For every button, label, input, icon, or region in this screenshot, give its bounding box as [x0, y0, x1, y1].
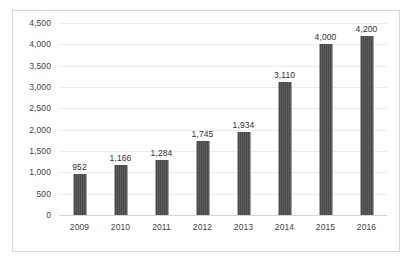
bar-value-label: 1,745: [192, 129, 214, 139]
y-axis: 05001,0001,5002,0002,5003,0003,5004,0004…: [13, 23, 57, 215]
y-axis-tick-label: 2,000: [29, 125, 51, 135]
x-axis: 20092010201120122013201420152016: [59, 219, 387, 241]
bar-series: 9521,1661,2841,7451,9343,1104,0004,200: [59, 23, 387, 215]
y-axis-tick-label: 3,000: [29, 82, 51, 92]
y-axis-tick-label: 4,000: [29, 39, 51, 49]
bar[interactable]: [73, 174, 86, 215]
x-axis-tick-label: 2015: [316, 222, 335, 232]
bar-group[interactable]: 1,284: [141, 23, 182, 215]
x-axis-tick-label: 2012: [193, 222, 212, 232]
x-axis-tick-label: 2009: [70, 222, 89, 232]
bar-group[interactable]: 1,745: [182, 23, 223, 215]
y-axis-tick-label: 500: [37, 189, 51, 199]
bar-value-label: 952: [72, 162, 86, 172]
y-axis-tick-label: 1,000: [29, 167, 51, 177]
x-axis-tick-label: 2013: [234, 222, 253, 232]
bar-value-label: 4,000: [315, 32, 337, 42]
bar[interactable]: [237, 132, 250, 215]
y-axis-tick-label: 3,500: [29, 61, 51, 71]
bar-group[interactable]: 1,166: [100, 23, 141, 215]
y-axis-tick-label: 0: [46, 210, 51, 220]
bar-group[interactable]: 952: [59, 23, 100, 215]
bar-value-label: 1,166: [110, 153, 132, 163]
y-axis-tick-label: 2,500: [29, 103, 51, 113]
y-axis-tick-label: 4,500: [29, 18, 51, 28]
bar[interactable]: [196, 141, 209, 215]
bar-value-label: 1,284: [151, 148, 173, 158]
bar[interactable]: [278, 82, 291, 215]
chart-plot-frame: 05001,0001,5002,0002,5003,0003,5004,0004…: [12, 10, 400, 252]
x-axis-tick-label: 2014: [275, 222, 294, 232]
bar-chart-figure: 05001,0001,5002,0002,5003,0003,5004,0004…: [0, 0, 415, 274]
gridline: [59, 215, 387, 216]
x-axis-tick-label: 2011: [152, 222, 171, 232]
bar-value-label: 3,110: [274, 70, 295, 80]
bar-group[interactable]: 3,110: [264, 23, 305, 215]
bar-value-label: 4,200: [356, 24, 378, 34]
bar-group[interactable]: 1,934: [223, 23, 264, 215]
bar[interactable]: [114, 165, 127, 215]
bar-value-label: 1,934: [233, 120, 255, 130]
bar[interactable]: [319, 44, 332, 215]
bar[interactable]: [155, 160, 168, 215]
bar-group[interactable]: 4,000: [305, 23, 346, 215]
y-axis-tick-label: 1,500: [29, 146, 51, 156]
plot-area: 9521,1661,2841,7451,9343,1104,0004,200: [59, 23, 387, 215]
x-axis-tick-label: 2010: [111, 222, 130, 232]
bar-group[interactable]: 4,200: [346, 23, 387, 215]
bar[interactable]: [360, 36, 373, 215]
x-axis-tick-label: 2016: [357, 222, 376, 232]
